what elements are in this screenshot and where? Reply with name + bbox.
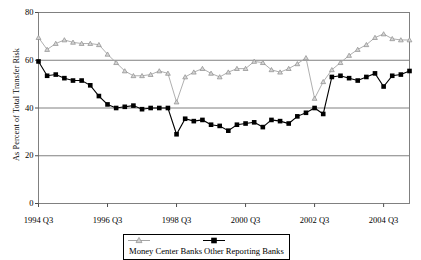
data-point-marker [252, 120, 257, 125]
data-point-marker [183, 75, 188, 79]
x-tick-label: 2002 Q3 [280, 216, 350, 225]
data-point-marker [226, 70, 231, 74]
data-point-marker [278, 119, 283, 124]
data-point-marker [330, 75, 335, 80]
data-point-marker [79, 78, 84, 83]
data-point-marker [148, 106, 153, 111]
data-point-marker [217, 124, 222, 129]
legend-label-money-center-banks: Money Center Banks [128, 246, 203, 257]
data-point-marker [62, 38, 67, 42]
data-point-marker [97, 94, 102, 99]
data-point-marker [217, 75, 222, 79]
legend-label-other-reporting-banks: Other Reporting Banks [203, 246, 285, 257]
data-point-marker [373, 71, 378, 76]
data-point-marker [381, 84, 386, 89]
data-point-marker [226, 128, 231, 133]
data-point-marker [364, 75, 369, 80]
legend-item-money-center-banks: Money Center Banks [128, 236, 203, 257]
legend-item-other-reporting-banks: Other Reporting Banks [203, 236, 285, 257]
data-point-marker [338, 73, 343, 78]
data-point-marker [381, 32, 386, 36]
x-tick-label: 2004 Q3 [349, 216, 419, 225]
legend-marker-square-icon [203, 236, 225, 245]
data-point-marker [88, 83, 93, 88]
data-point-marker [304, 56, 309, 60]
chart-legend: Money Center Banks Other Reporting Banks [123, 234, 290, 260]
data-point-marker [62, 76, 67, 81]
y-tick-label: 0 [12, 199, 34, 208]
data-point-marker [399, 72, 404, 77]
x-tick-label: 2000 Q3 [211, 216, 281, 225]
data-point-marker [53, 72, 58, 77]
data-series-1 [36, 32, 412, 104]
data-point-marker [269, 118, 274, 123]
data-point-marker [191, 70, 196, 74]
data-point-marker [45, 73, 50, 78]
data-point-marker [286, 66, 291, 70]
data-point-marker [312, 106, 317, 111]
y-tick-label: 60 [12, 56, 34, 65]
data-point-marker [209, 71, 214, 75]
data-point-marker [53, 41, 58, 45]
data-point-marker [407, 69, 412, 74]
data-point-marker [114, 106, 119, 111]
data-point-marker [355, 47, 360, 51]
data-series-2 [36, 59, 412, 136]
data-point-marker [286, 121, 291, 126]
data-point-marker [355, 78, 360, 83]
data-point-marker [373, 35, 378, 39]
data-point-marker [122, 105, 127, 110]
y-tick-label: 40 [12, 104, 34, 113]
data-point-marker [192, 119, 197, 124]
legend-marker-triangle-icon [128, 236, 150, 245]
y-tick-label: 20 [12, 151, 34, 160]
data-point-marker [157, 106, 162, 111]
data-point-marker [235, 122, 240, 127]
data-point-marker [140, 107, 145, 112]
data-point-marker [174, 132, 179, 137]
data-point-marker [321, 112, 326, 117]
data-point-marker [261, 125, 266, 130]
data-point-marker [209, 122, 214, 127]
data-point-marker [243, 121, 248, 126]
data-point-marker [347, 76, 352, 81]
data-point-marker [183, 116, 188, 121]
data-point-marker [131, 103, 136, 108]
data-point-marker [390, 73, 395, 78]
data-point-marker [71, 78, 76, 83]
data-point-marker [304, 110, 309, 115]
data-point-marker [36, 59, 41, 64]
x-tick-label: 1994 Q3 [4, 216, 74, 225]
data-point-marker [166, 106, 171, 111]
data-point-marker [295, 114, 300, 119]
data-point-marker [105, 102, 110, 107]
x-tick-label: 1998 Q3 [142, 216, 212, 225]
x-tick-label: 1996 Q3 [73, 216, 143, 225]
data-point-marker [36, 35, 41, 39]
series-line [39, 34, 410, 102]
data-point-marker [200, 66, 205, 70]
data-point-marker [157, 69, 162, 73]
data-point-marker [312, 96, 317, 100]
series-line [39, 61, 410, 134]
y-tick-label: 80 [12, 8, 34, 17]
data-point-marker [174, 100, 179, 104]
data-point-marker [200, 118, 205, 123]
